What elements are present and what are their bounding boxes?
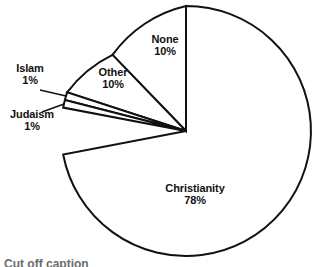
pie-label-christianity-name: Christianity	[140, 182, 250, 194]
pie-label-christianity: Christianity 78%	[140, 182, 250, 207]
pie-label-christianity-value: 78%	[140, 194, 250, 206]
pie-label-islam-name: Islam	[2, 62, 58, 74]
leader-line-islam	[40, 90, 66, 96]
pie-label-judaism-name: Judaism	[0, 108, 64, 120]
pie-label-none-value: 10%	[136, 45, 194, 57]
pie-label-islam-value: 1%	[2, 74, 58, 86]
pie-label-judaism-value: 1%	[0, 120, 64, 132]
cut-off-caption: Cut off caption	[4, 258, 144, 267]
pie-label-islam: Islam 1%	[2, 62, 58, 87]
pie-label-judaism: Judaism 1%	[0, 108, 64, 133]
pie-chart: None 10% Other 10% Islam 1% Judaism 1% C…	[0, 0, 316, 267]
pie-label-none: None 10%	[136, 33, 194, 58]
pie-label-other-value: 10%	[84, 78, 142, 90]
pie-label-other: Other 10%	[84, 66, 142, 91]
pie-label-other-name: Other	[84, 66, 142, 78]
pie-label-none-name: None	[136, 33, 194, 45]
